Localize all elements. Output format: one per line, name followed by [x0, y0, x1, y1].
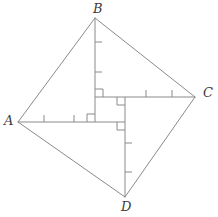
edge-AB — [18, 18, 95, 122]
right-angle-lower-right — [117, 122, 125, 130]
vertex-label-d: D — [121, 200, 131, 213]
edge-DA — [18, 122, 125, 197]
right-angle-lower-left — [87, 114, 95, 122]
right-angle-upper-right — [117, 97, 125, 105]
geometry-figure: A B C D — [0, 0, 218, 217]
edge-CD — [125, 97, 195, 197]
vertex-label-a: A — [4, 114, 13, 127]
right-angle-upper-left — [95, 89, 103, 97]
right-angle-marks-group — [87, 89, 125, 130]
edge-BC — [95, 18, 195, 97]
geometry-canvas — [0, 0, 218, 217]
vertex-label-c: C — [203, 86, 213, 99]
quadrilateral-outline — [18, 18, 195, 197]
inner-segments-group — [18, 18, 195, 197]
vertex-label-b: B — [93, 2, 103, 15]
